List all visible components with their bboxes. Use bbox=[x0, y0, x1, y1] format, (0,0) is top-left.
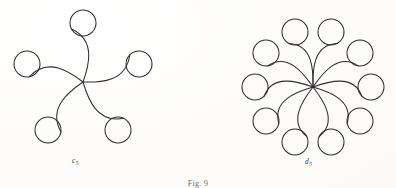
rosette-node bbox=[282, 129, 308, 155]
rosette-arm bbox=[29, 67, 83, 82]
rosette-node bbox=[282, 19, 308, 45]
rosette-node bbox=[35, 117, 61, 143]
rosette-arm bbox=[313, 81, 362, 96]
rosette-arm bbox=[72, 29, 89, 82]
rosette-arm bbox=[83, 82, 124, 119]
figure-page: c5 d5 Fig. 9 bbox=[0, 0, 396, 188]
rosette-node bbox=[318, 19, 344, 45]
rosette-arm bbox=[313, 87, 328, 136]
rosette-node bbox=[253, 40, 279, 66]
rosette-node bbox=[347, 40, 373, 66]
rosette-node bbox=[242, 74, 268, 100]
rosette-node bbox=[253, 108, 279, 134]
rosette-arm bbox=[298, 87, 313, 136]
rosette-node bbox=[126, 51, 152, 77]
figure-label-c5-base: c bbox=[72, 156, 76, 165]
rosette-arm bbox=[264, 81, 313, 96]
rosette-node bbox=[70, 10, 96, 36]
rosette-arm bbox=[313, 87, 348, 123]
rosette-node bbox=[105, 117, 131, 143]
rosette-node bbox=[318, 129, 344, 155]
rosette-node bbox=[14, 51, 40, 77]
figure-label-d5: d5 bbox=[305, 158, 312, 166]
figure-label-c5-subscript: 5 bbox=[76, 160, 79, 166]
rosette-node bbox=[358, 74, 384, 100]
rosette-arm bbox=[57, 82, 83, 132]
rosette-arm bbox=[83, 55, 130, 82]
rosette-arm bbox=[278, 87, 313, 123]
rosette-node bbox=[347, 108, 373, 134]
figures-canvas bbox=[0, 0, 396, 188]
figure-label-d5-subscript: 5 bbox=[309, 161, 312, 167]
figure-caption: Fig. 9 bbox=[0, 180, 396, 188]
figure-label-c5: c5 bbox=[72, 157, 78, 165]
figure-d5-rosette bbox=[242, 19, 384, 155]
figure-c5-rosette bbox=[14, 10, 152, 143]
